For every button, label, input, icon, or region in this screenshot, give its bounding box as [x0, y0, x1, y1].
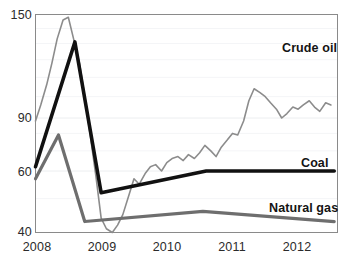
series-label-natural-gas: Natural gas [269, 201, 338, 215]
x-tick-label-2011: 2011 [209, 240, 255, 254]
y-tick-label-90: 90 [2, 111, 32, 125]
series-label-crude-oil: Crude oil [282, 41, 337, 55]
y-tick-label-40: 40 [2, 225, 32, 239]
y-tick-label-150: 150 [2, 8, 32, 22]
x-tick-label-2008: 2008 [14, 240, 60, 254]
energy-price-index-chart: 150 90 60 40 2008 2009 2010 2011 2012 Cr… [0, 0, 344, 270]
x-tick-label-2010: 2010 [144, 240, 190, 254]
series-line-coal [36, 42, 335, 193]
x-tick-label-2009: 2009 [79, 240, 125, 254]
series-label-coal: Coal [301, 156, 329, 170]
y-tick-label-60: 60 [2, 165, 32, 179]
x-tick-label-2012: 2012 [274, 240, 320, 254]
